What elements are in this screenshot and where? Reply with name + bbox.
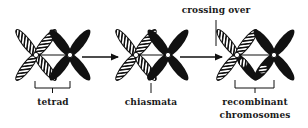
crossing-over-diagram — [0, 0, 308, 128]
bracket-icon — [235, 80, 274, 93]
chiasmata-label: chiasmata — [116, 97, 186, 107]
tetrad-group — [13, 27, 94, 93]
recombinant-label: recombinant — [215, 97, 295, 107]
crossing-over-label: crossing over — [178, 5, 254, 15]
tetrad-label: tetrad — [23, 97, 83, 107]
chromosomes-label: chromosomes — [215, 110, 295, 120]
bracket-icon — [35, 81, 70, 93]
recombinant-group — [214, 27, 298, 93]
chiasmata-group — [113, 27, 192, 93]
